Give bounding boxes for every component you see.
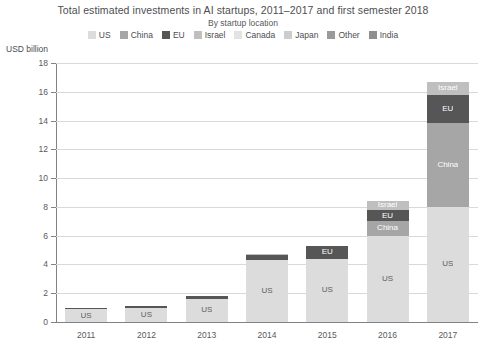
x-tick-label-2011: 2011 <box>77 330 95 340</box>
bar-segment-label: Israel <box>438 84 458 92</box>
x-tick-label-2014: 2014 <box>258 330 277 340</box>
bar-segment-label: Israel <box>378 201 398 209</box>
bar-segment-2014-us[interactable]: US <box>246 260 288 322</box>
bar-segment-2015-us[interactable]: US <box>306 259 348 322</box>
bar-segment-2017-us[interactable]: US <box>427 207 469 322</box>
bar-segment-label: China <box>437 161 458 169</box>
bar-segment-2017-eu[interactable]: EU <box>427 95 469 124</box>
bar-segment-2012-us[interactable]: US <box>125 308 167 322</box>
y-tick-label: 2 <box>22 288 48 298</box>
bar-segment-label: US <box>261 287 272 295</box>
legend-item-canada[interactable]: Canada <box>234 30 275 40</box>
legend-item-india[interactable]: India <box>369 30 398 40</box>
y-tick-label: 14 <box>22 116 48 126</box>
bar-2015[interactable]: USEU <box>306 246 348 322</box>
bar-segment-2013-us[interactable]: US <box>186 299 228 322</box>
legend-swatch-icon <box>369 31 377 39</box>
bar-segment-2011-us[interactable]: US <box>65 309 107 322</box>
legend-label: Other <box>338 30 359 40</box>
bar-segment-2011-eu[interactable] <box>65 308 107 309</box>
x-tick-label-2013: 2013 <box>197 330 216 340</box>
bar-2012[interactable]: US <box>125 306 167 322</box>
y-tick-label: 4 <box>22 259 48 269</box>
x-tick-label-2015: 2015 <box>318 330 337 340</box>
legend-swatch-icon <box>234 31 242 39</box>
bar-2013[interactable]: US <box>186 296 228 322</box>
y-tick-label: 0 <box>22 317 48 327</box>
bar-segment-2016-us[interactable]: US <box>367 236 409 322</box>
chart-subtitle: By startup location <box>0 18 486 28</box>
bar-segment-2014-eu[interactable] <box>246 255 288 260</box>
gridline <box>56 178 478 179</box>
gridline <box>56 92 478 93</box>
legend-swatch-icon <box>284 31 292 39</box>
bar-segment-2014-israel[interactable] <box>246 254 288 255</box>
gridline <box>56 207 478 208</box>
bar-segment-2012-eu[interactable] <box>125 306 167 307</box>
bar-segment-2013-eu[interactable] <box>186 296 228 299</box>
gridline <box>56 149 478 150</box>
legend-label: US <box>99 30 111 40</box>
chart-legend: USChinaEUIsraelCanadaJapanOtherIndia <box>0 30 486 40</box>
legend-item-other[interactable]: Other <box>327 30 359 40</box>
x-tick-label-2012: 2012 <box>137 330 156 340</box>
bar-segment-2017-china[interactable]: China <box>427 123 469 206</box>
legend-item-eu[interactable]: EU <box>162 30 185 40</box>
gridline <box>56 236 478 237</box>
bar-segment-label: US <box>81 312 92 320</box>
legend-item-japan[interactable]: Japan <box>284 30 318 40</box>
legend-swatch-icon <box>327 31 335 39</box>
x-tick-label-2016: 2016 <box>378 330 397 340</box>
legend-label: China <box>131 30 153 40</box>
legend-swatch-icon <box>120 31 128 39</box>
y-tick-label: 8 <box>22 202 48 212</box>
x-axis-line <box>56 322 478 323</box>
bar-2014[interactable]: US <box>246 254 288 322</box>
bar-segment-2016-eu[interactable]: EU <box>367 210 409 222</box>
bar-segment-2017-israel[interactable]: Israel <box>427 82 469 95</box>
bar-segment-label: US <box>382 275 393 283</box>
bar-2017[interactable]: USChinaEUIsrael <box>427 82 469 322</box>
legend-item-china[interactable]: China <box>120 30 153 40</box>
bar-segment-label: US <box>201 306 212 314</box>
bar-segment-label: US <box>442 260 453 268</box>
bar-segment-2016-china[interactable]: China <box>367 221 409 235</box>
bar-segment-label: EU <box>442 105 453 113</box>
y-tick-label: 10 <box>22 173 48 183</box>
bar-segment-label: US <box>141 311 152 319</box>
chart-container: Total estimated investments in AI startu… <box>0 0 486 354</box>
bar-2011[interactable]: US <box>65 308 107 322</box>
legend-label: Japan <box>295 30 318 40</box>
legend-swatch-icon <box>88 31 96 39</box>
legend-label: EU <box>173 30 185 40</box>
legend-label: Israel <box>205 30 226 40</box>
legend-item-israel[interactable]: Israel <box>194 30 226 40</box>
bar-segment-label: EU <box>382 212 393 220</box>
plot-area: USUSUSUSUSEUUSChinaEUIsraelUSChinaEUIsra… <box>56 63 478 322</box>
y-axis-title: USD billion <box>6 44 48 54</box>
bar-2016[interactable]: USChinaEUIsrael <box>367 201 409 322</box>
bar-segment-2015-eu[interactable]: EU <box>306 246 348 259</box>
bar-segment-label: US <box>322 286 333 294</box>
legend-swatch-icon <box>162 31 170 39</box>
chart-title: Total estimated investments in AI startu… <box>0 4 486 16</box>
y-tick-label: 12 <box>22 144 48 154</box>
bar-segment-label: China <box>377 224 398 232</box>
y-tick-label: 16 <box>22 87 48 97</box>
y-tick-label: 18 <box>22 58 48 68</box>
legend-swatch-icon <box>194 31 202 39</box>
gridline <box>56 121 478 122</box>
gridline <box>56 63 478 64</box>
bar-segment-label: EU <box>322 248 333 256</box>
bar-segment-2016-israel[interactable]: Israel <box>367 201 409 210</box>
legend-label: India <box>380 30 398 40</box>
legend-label: Canada <box>245 30 275 40</box>
legend-item-us[interactable]: US <box>88 30 111 40</box>
y-tick-label: 6 <box>22 231 48 241</box>
x-tick-label-2017: 2017 <box>438 330 457 340</box>
